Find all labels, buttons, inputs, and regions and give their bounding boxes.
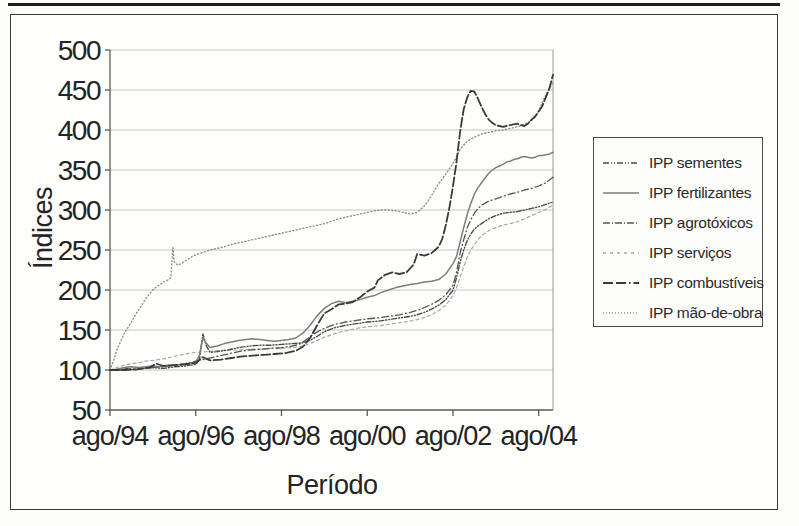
series-fertilizantes (110, 152, 553, 370)
legend-label-sementes: IPP sementes (649, 154, 742, 172)
combustiveis-line-icon (602, 280, 640, 286)
mao-de-obra-line-icon (602, 310, 640, 316)
x-tick-label: ago/98 (243, 421, 320, 451)
y-tick-label: 100 (58, 355, 101, 386)
y-tick-label: 300 (58, 195, 101, 226)
y-tick-label: 500 (58, 35, 101, 66)
legend-item-fertilizantes: IPP fertilizantes (594, 178, 762, 208)
x-tick-label: ago/96 (157, 421, 234, 451)
sementes-line-icon (602, 160, 640, 166)
legend-item-servicos: IPP serviços (594, 238, 762, 268)
agrotoxicos-line-icon (602, 220, 640, 226)
y-tick-label: 350 (58, 155, 101, 186)
y-tick-label: 250 (58, 235, 101, 266)
legend-item-agrotoxicos: IPP agrotóxicos (594, 208, 762, 238)
x-tick-label: ago/00 (329, 421, 406, 451)
legend-label-agrotoxicos: IPP agrotóxicos (649, 214, 753, 232)
y-axis-title: Índices (26, 158, 60, 298)
series-servicos (110, 205, 553, 370)
x-axis-title: Período (232, 470, 432, 501)
legend-label-combustiveis: IPP combustíveis (649, 274, 764, 292)
x-tick-label: ago/04 (500, 421, 578, 451)
tick-labels: 50100150200250300350400450500ago/94ago/9… (58, 35, 578, 451)
legend: IPP sementes IPP fertilizantes IPP agrot… (593, 137, 763, 327)
x-tick-label: ago/94 (72, 421, 150, 451)
y-tick-label: 400 (58, 115, 101, 146)
series-agrotoxicos (110, 177, 553, 370)
gridlines (110, 50, 553, 370)
scanned-figure-page: 50100150200250300350400450500ago/94ago/9… (0, 0, 799, 526)
fertilizantes-line-icon (602, 190, 640, 196)
legend-label-mao-de-obra: IPP mão-de-obra (649, 304, 762, 322)
series-mao-de-obra (110, 83, 553, 370)
x-tick-label: ago/02 (415, 421, 492, 451)
series-sementes (110, 202, 553, 370)
y-tick-label: 200 (58, 275, 101, 306)
legend-label-servicos: IPP serviços (649, 244, 731, 262)
servicos-line-icon (602, 250, 640, 256)
legend-item-mao-de-obra: IPP mão-de-obra (594, 298, 762, 328)
legend-item-sementes: IPP sementes (594, 148, 762, 178)
y-tick-label: 150 (58, 315, 101, 346)
y-tick-label: 450 (58, 75, 101, 106)
legend-item-combustiveis: IPP combustíveis (594, 268, 762, 298)
legend-label-fertilizantes: IPP fertilizantes (649, 184, 751, 202)
